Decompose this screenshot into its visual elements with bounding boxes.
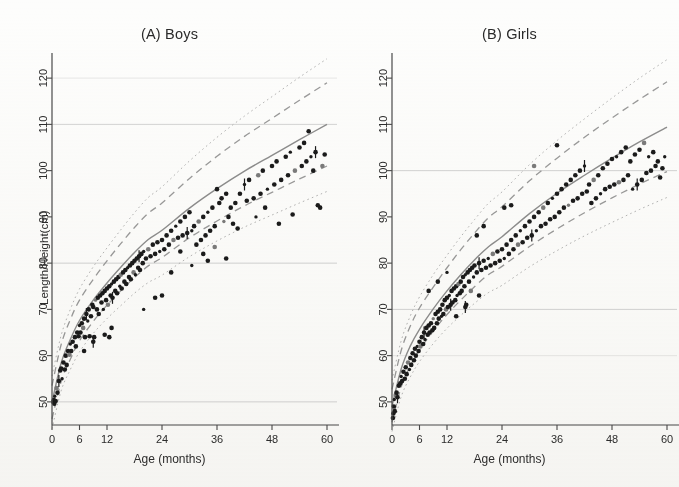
growth-chart-figure: (A) Boys Length/Height(cm) Age (months) … <box>0 0 679 487</box>
svg-text:6: 6 <box>76 433 82 445</box>
panel-a-tick-labels: 5060708090100110120061224364860 <box>37 69 333 445</box>
svg-text:80: 80 <box>377 257 389 269</box>
svg-text:90: 90 <box>37 211 49 223</box>
svg-text:24: 24 <box>156 433 168 445</box>
svg-text:0: 0 <box>49 433 55 445</box>
svg-text:60: 60 <box>37 350 49 362</box>
panel-boys: (A) Boys Length/Height(cm) Age (months) … <box>0 0 339 487</box>
svg-text:36: 36 <box>551 433 563 445</box>
svg-text:80: 80 <box>37 257 49 269</box>
svg-text:70: 70 <box>377 303 389 315</box>
svg-text:100: 100 <box>37 161 49 179</box>
svg-text:0: 0 <box>389 433 395 445</box>
svg-text:90: 90 <box>377 211 389 223</box>
svg-text:60: 60 <box>377 350 389 362</box>
svg-text:110: 110 <box>37 116 49 134</box>
svg-text:12: 12 <box>441 433 453 445</box>
panel-b-tick-labels: 5060708090100110120061224364860 <box>377 69 673 445</box>
svg-text:12: 12 <box>101 433 113 445</box>
svg-text:50: 50 <box>37 396 49 408</box>
svg-text:60: 60 <box>321 433 333 445</box>
panel-a-reference-curves <box>52 59 327 429</box>
panel-girls: (B) Girls Length/Height(cm) Age (months)… <box>340 0 679 487</box>
svg-text:70: 70 <box>37 303 49 315</box>
svg-text:6: 6 <box>416 433 422 445</box>
panel-a-gridlines <box>52 78 337 402</box>
svg-text:50: 50 <box>377 396 389 408</box>
panel-b-reference-curves <box>392 60 667 432</box>
svg-text:110: 110 <box>377 116 389 134</box>
svg-text:120: 120 <box>37 69 49 87</box>
svg-text:60: 60 <box>661 433 673 445</box>
svg-text:48: 48 <box>606 433 618 445</box>
svg-text:120: 120 <box>377 69 389 87</box>
panel-a-axes <box>47 53 339 430</box>
svg-text:36: 36 <box>211 433 223 445</box>
panel-a-plot: 5060708090100110120061224364860 <box>0 0 339 487</box>
svg-text:100: 100 <box>377 161 389 179</box>
svg-text:48: 48 <box>266 433 278 445</box>
panel-b-axes <box>387 53 679 430</box>
panel-b-plot: 5060708090100110120061224364860 <box>340 0 679 487</box>
svg-text:24: 24 <box>496 433 508 445</box>
